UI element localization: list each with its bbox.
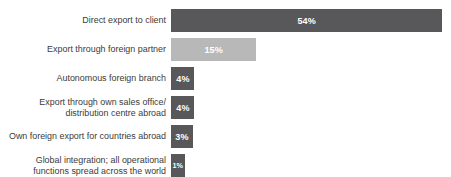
bar-track: 4% [171, 96, 451, 119]
bar-value-label: 4% [176, 102, 189, 113]
category-label: Own foreign export for countries abroad [5, 125, 166, 148]
bar-fill: 4% [171, 96, 194, 119]
bar-track: 15% [171, 38, 451, 61]
bar-fill: 15% [171, 38, 256, 61]
bar-row: Direct export to client 54% [0, 9, 451, 32]
bar-chart: Direct export to client 54% Export throu… [0, 0, 451, 177]
bar-value-label: 4% [176, 73, 189, 84]
bar-row: Autonomous foreign branch 4% [0, 67, 451, 90]
bar-fill: 1% [171, 154, 185, 177]
bar-fill: 3% [171, 125, 193, 148]
category-label: Global integration; all operational func… [5, 154, 166, 177]
bar-row: Own foreign export for countries abroad … [0, 125, 451, 148]
bar-row: Export through foreign partner 15% [0, 38, 451, 61]
bar-rows: Direct export to client 54% Export throu… [0, 9, 451, 177]
category-label: Direct export to client [5, 9, 166, 32]
category-label: Export through foreign partner [5, 38, 166, 61]
bar-value-label: 54% [297, 15, 315, 26]
bar-track: 4% [171, 67, 451, 90]
bar-fill: 54% [171, 9, 442, 32]
bar-value-label: 1% [173, 161, 183, 170]
bar-track: 1% [171, 154, 451, 177]
bar-fill: 4% [171, 67, 194, 90]
bar-value-label: 3% [175, 131, 188, 142]
bar-row: Global integration; all operational func… [0, 154, 451, 177]
bar-value-label: 15% [204, 44, 222, 55]
bar-track: 3% [171, 125, 451, 148]
category-label: Export through own sales office/ distrib… [5, 96, 166, 119]
bar-track: 54% [171, 9, 451, 32]
bar-row: Export through own sales office/ distrib… [0, 96, 451, 119]
category-label: Autonomous foreign branch [5, 67, 166, 90]
